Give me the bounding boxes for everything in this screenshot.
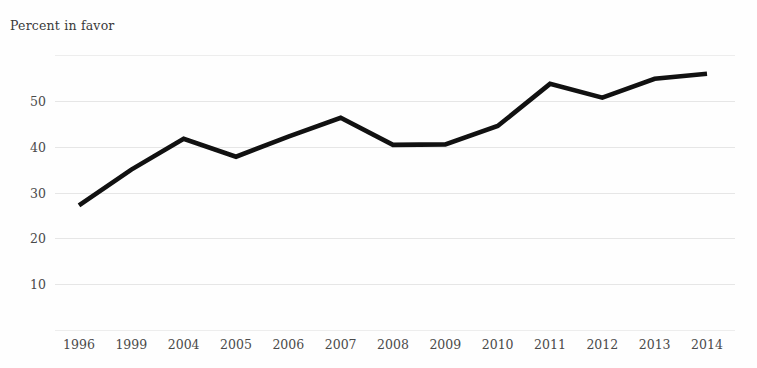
plot-area: 5040302010	[55, 55, 735, 330]
x-axis-tick-label: 2004	[168, 337, 200, 352]
x-axis-tick-label: 1999	[115, 337, 147, 352]
x-axis-tick-label: 2008	[377, 337, 409, 352]
x-axis-tick-label: 2014	[691, 337, 723, 352]
page-title: Percent in favor	[10, 18, 115, 33]
x-axis-tick-label: 2010	[482, 337, 514, 352]
line-series	[55, 55, 735, 330]
x-axis-tick-label: 1996	[63, 337, 95, 352]
y-axis-tick-label: 50	[30, 93, 46, 108]
x-axis-tick-label: 2011	[534, 337, 566, 352]
x-axis-tick-label: 2009	[429, 337, 461, 352]
y-axis-tick-label: 10	[30, 277, 46, 292]
x-axis-tick-label: 2005	[220, 337, 252, 352]
y-axis-tick-label: 30	[30, 185, 46, 200]
x-axis-tick-label: 2012	[586, 337, 618, 352]
y-axis-tick-label: 20	[30, 231, 46, 246]
x-axis-tick-label: 2013	[639, 337, 671, 352]
x-axis-tick-label: 2006	[272, 337, 304, 352]
x-axis-ticks: 1996199920042005200620072008200920102011…	[55, 337, 735, 359]
series-polyline	[79, 74, 707, 206]
gridline	[55, 330, 735, 331]
y-axis-tick-label: 40	[30, 139, 46, 154]
x-axis-tick-label: 2007	[325, 337, 357, 352]
chart-screenshot: Percent in favor 5040302010 199619992004…	[0, 0, 757, 368]
